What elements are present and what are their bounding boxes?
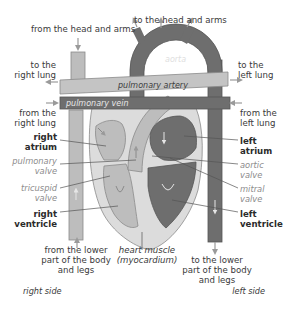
right-atrium-label-2: atrium [25,142,57,152]
to-lower-body-label-2: part of the body [182,265,251,275]
from-right-lung-label-2: right lung [14,118,56,128]
from-head-arms-label: from the head and arms [31,24,136,34]
pulmonary-valve-label-1: pulmonary [11,156,57,166]
mitral-valve-label-2: valve [240,194,262,204]
pulmonary-artery-label: pulmonary artery [117,81,188,90]
right-ventricle-label-1: right [33,209,57,219]
pulmonary-vein-label: pulmonary vein [65,99,129,108]
from-left-lung-label-1: from the [240,108,277,118]
to-lower-body-label-3: and legs [199,275,236,285]
to-left-lung-label-2: left lung [238,70,273,80]
from-lower-body-label-3: and legs [58,265,95,275]
left-ventricle-label-1: left [240,209,257,219]
from-lower-body-label-1: from the lower [44,245,108,255]
to-lower-body-label-1: to the lower [191,255,243,265]
inferior-vena-cava [69,110,83,240]
pulmonary-vein: pulmonary vein [60,97,230,109]
pulmonary-valve-label-2: valve [35,166,57,176]
descending-aorta [208,60,222,242]
to-head-arms-label: to the head and arms [134,15,227,25]
left-side-label: left side [232,286,265,296]
heart-diagram: pulmonary artery pulmonary vein aorta [0,0,288,314]
mitral-valve-label-1: mitral [240,184,265,194]
heart-muscle-label-2: (myocardium) [117,255,178,265]
from-lower-body-label-2: part of the body [41,255,110,265]
left-atrium-label-1: left [240,136,257,146]
left-atrium-label-2: atrium [240,146,272,156]
from-right-lung-label-1: from the [19,108,56,118]
to-right-lung-label-1: to the [31,60,56,70]
aorta-label: aorta [165,55,186,64]
to-left-lung-label-1: to the [238,60,263,70]
tricuspid-valve-label-2: valve [35,193,57,203]
aortic-valve-label-1: aortic [240,160,264,170]
heart-muscle-label-1: heart muscle [119,245,175,255]
from-left-lung-label-2: left lung [240,118,275,128]
aortic-valve-label-2: valve [240,170,262,180]
right-side-label: right side [23,286,62,296]
right-ventricle-label-2: ventricle [14,219,57,229]
tricuspid-valve-label-1: tricuspid [21,183,58,193]
left-ventricle-label-2: ventricle [240,219,283,229]
to-right-lung-label-2: right lung [14,70,56,80]
right-atrium-label-1: right [33,132,57,142]
